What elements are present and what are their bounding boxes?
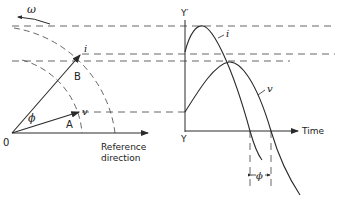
projection-lines	[12, 26, 335, 188]
voltage-phasor-label: v	[82, 106, 88, 117]
reference-label-line1: Reference	[101, 142, 147, 152]
phase-angle-label: ϕ	[28, 112, 36, 125]
voltage-label-leader	[258, 90, 265, 95]
reference-label-line2: direction	[101, 153, 140, 163]
phase-difference-label: ϕ	[256, 170, 263, 181]
voltage-waveform	[185, 62, 300, 195]
current-label-leader	[218, 35, 224, 38]
omega-arrow-icon	[18, 17, 50, 24]
y-axis-top-label: Y′	[180, 8, 189, 18]
current-waveform	[185, 26, 262, 160]
current-phasor-label: i	[84, 43, 87, 54]
phasor-diagram: ω 0 ϕ A B v i Reference direction Y′ Y T…	[0, 0, 337, 198]
voltage-curve-label: v	[267, 83, 273, 94]
origin-label: 0	[3, 137, 9, 148]
omega-label: ω	[27, 3, 36, 16]
vector-b-label: B	[74, 71, 81, 82]
vector-a-label: A	[66, 119, 73, 130]
y-axis-bottom-label: Y	[180, 134, 187, 144]
time-axis-label: Time	[301, 126, 324, 136]
current-curve-label: i	[226, 28, 229, 39]
